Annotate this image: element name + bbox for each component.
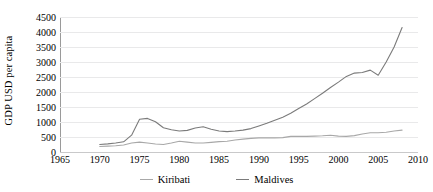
x-tick-label: 1970: [90, 154, 110, 165]
x-tick-label: 2010: [408, 154, 428, 165]
y-axis-tick-labels: 050010001500200025003000350040004500: [0, 17, 56, 152]
y-tick-label: 2000: [2, 87, 56, 98]
y-tick-label: 1500: [2, 102, 56, 113]
legend-entry-maldives[interactable]: Maldives: [236, 174, 293, 185]
x-axis-tick-labels: 1965197019751980198519901995200020052010: [60, 154, 418, 168]
legend-label: Maldives: [254, 174, 293, 185]
series-lines: [60, 17, 418, 152]
y-tick-label: 1000: [2, 117, 56, 128]
plot-area: [60, 17, 418, 152]
gdp-per-capita-line-chart: GDP USD per capita 050010001500200025003…: [0, 0, 433, 192]
y-tick-label: 0: [2, 147, 56, 158]
series-line-maldives: [100, 28, 402, 145]
x-tick-label: 2005: [368, 154, 388, 165]
legend-line-icon: [140, 179, 153, 180]
y-tick-label: 4000: [2, 27, 56, 38]
chart-legend: KiribatiMaldives: [0, 170, 433, 188]
series-line-kiribati: [100, 130, 402, 146]
x-tick-label: 1965: [50, 154, 70, 165]
x-tick-label: 1990: [249, 154, 269, 165]
x-tick-label: 1980: [169, 154, 189, 165]
legend-line-icon: [236, 179, 249, 180]
x-tick-label: 1975: [130, 154, 150, 165]
legend-label: Kiribati: [158, 174, 191, 185]
y-tick-label: 4500: [2, 12, 56, 23]
x-tick-label: 1995: [289, 154, 309, 165]
y-tick-label: 500: [2, 132, 56, 143]
x-tick-label: 2000: [328, 154, 348, 165]
y-tick-label: 3500: [2, 42, 56, 53]
x-tick-label: 1985: [209, 154, 229, 165]
y-tick-label: 3000: [2, 57, 56, 68]
gridline: [60, 152, 418, 153]
y-tick-label: 2500: [2, 72, 56, 83]
legend-entry-kiribati[interactable]: Kiribati: [140, 174, 191, 185]
